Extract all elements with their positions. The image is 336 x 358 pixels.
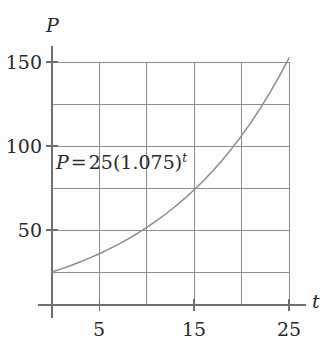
- y-tick-label-100: 100: [0, 137, 42, 156]
- equation-base: 1.075: [120, 151, 174, 173]
- x-axis-title: t: [312, 292, 320, 311]
- x-tick-label-25: 25: [269, 320, 309, 339]
- chart-figure: P t 150 100 50 5 15 25 P=25(1.075)t: [0, 0, 336, 358]
- equation-lhs: P: [56, 151, 69, 173]
- equation-coefficient: 25: [89, 151, 113, 173]
- y-tick-label-150: 150: [0, 53, 42, 72]
- plot-canvas: [0, 0, 336, 358]
- x-tick-label-15: 15: [174, 320, 214, 339]
- equation-exponent: t: [182, 151, 187, 165]
- y-axis-title: P: [46, 16, 59, 35]
- y-tick-label-50: 50: [0, 221, 42, 240]
- equation-equals: =: [69, 151, 89, 173]
- equation-annotation: P=25(1.075)t: [56, 152, 187, 172]
- x-tick-label-5: 5: [79, 320, 119, 339]
- vertical-gridlines: [99, 62, 289, 305]
